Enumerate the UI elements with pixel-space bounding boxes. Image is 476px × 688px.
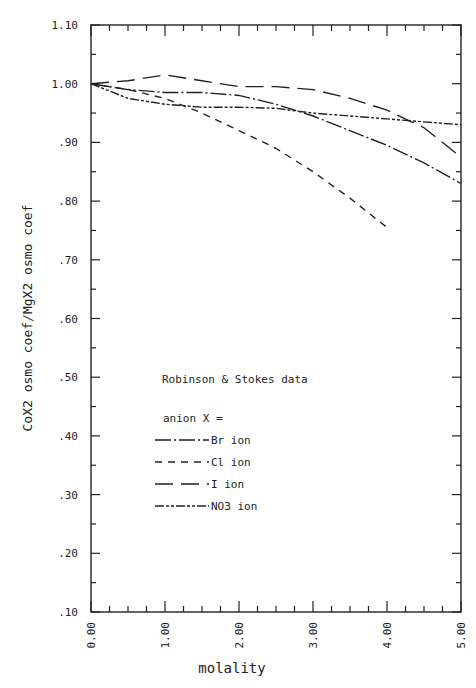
y-tick-label: .40 [58,430,78,443]
series-lines [91,75,461,228]
x-tick-label: 3.00 [307,622,320,649]
data-source-annotation: Robinson & Stokes data [162,373,308,386]
x-tick-label: 2.00 [233,622,246,649]
y-tick-label: .30 [58,489,78,502]
y-tick-label: .90 [58,136,78,149]
legend-item-label: NO3 ion [211,500,257,513]
legend-item-label: Br ion [211,434,251,447]
x-tick-label: 5.00 [455,622,468,649]
x-tick-label: 1.00 [159,622,172,649]
legend: Br ionCl ionI ionNO3 ion [155,434,257,513]
y-tick-label: 1.10 [52,19,79,32]
x-tick-label: 4.00 [381,622,394,649]
axes: 1.101.00.90.80.70.60.50.40.30.20.100.001… [52,19,469,649]
y-tick-label: .10 [58,606,78,619]
line-chart: 1.101.00.90.80.70.60.50.40.30.20.100.001… [0,0,476,688]
x-axis-label: molality [198,660,265,676]
y-tick-label: .50 [58,371,78,384]
y-tick-label: .70 [58,254,78,267]
y-tick-label: .80 [58,195,78,208]
y-tick-label: .60 [58,313,78,326]
y-tick-label: .20 [58,547,78,560]
legend-title: anion X = [163,412,223,425]
series-line-br-ion [91,84,461,184]
x-tick-label: 0.00 [85,622,98,649]
series-line-cl-ion [91,84,387,228]
plot-frame [91,25,461,612]
y-tick-label: 1.00 [52,78,79,91]
legend-item-label: Cl ion [211,456,251,469]
series-line-i-ion [91,75,461,157]
y-axis-label: CoX2 osmo coef/MgX2 osmo coef [20,205,35,432]
legend-item-label: I ion [211,478,244,491]
